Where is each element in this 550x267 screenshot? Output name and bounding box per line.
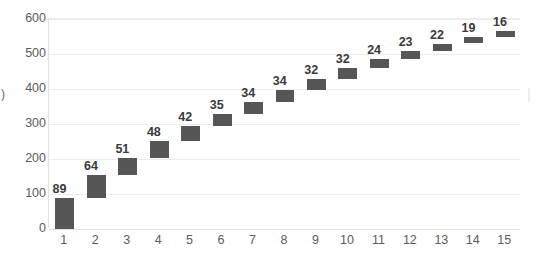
bar-value-label-8: 34 — [273, 74, 287, 88]
bar-value-label-13: 22 — [430, 28, 444, 42]
x-axis-tick-label-13: 13 — [434, 233, 448, 247]
bar-12[interactable] — [401, 51, 420, 59]
bar-value-label-15: 16 — [493, 15, 507, 29]
bar-value-label-9: 32 — [304, 63, 318, 77]
x-axis-tick-label-14: 14 — [466, 233, 480, 247]
bar-8[interactable] — [276, 90, 295, 102]
bar-value-label-5: 42 — [178, 110, 192, 124]
bar-4[interactable] — [150, 141, 169, 158]
right-edge-clipped-artifact — [528, 88, 530, 102]
y-axis-tick-label: 400 — [2, 81, 46, 95]
bar-5[interactable] — [181, 126, 200, 141]
bar-value-label-3: 51 — [115, 142, 129, 156]
gridline-300 — [49, 124, 520, 125]
bar-value-label-4: 48 — [147, 125, 161, 139]
gridline-500 — [49, 54, 520, 55]
bar-value-label-10: 32 — [336, 52, 350, 66]
x-axis: 123456789101112131415 — [48, 231, 520, 255]
bar-11[interactable] — [370, 59, 389, 67]
bar-value-label-6: 35 — [210, 98, 224, 112]
x-axis-tick-label-7: 7 — [249, 233, 256, 247]
bar-value-label-11: 24 — [367, 43, 381, 57]
bar-13[interactable] — [433, 44, 452, 52]
bar-value-label-1: 89 — [52, 182, 66, 196]
y-axis-tick-label: 500 — [2, 46, 46, 60]
gridline-0 — [49, 229, 520, 230]
x-axis-tick-label-6: 6 — [218, 233, 225, 247]
x-axis-tick-label-15: 15 — [497, 233, 511, 247]
x-axis-tick-label-5: 5 — [186, 233, 193, 247]
x-axis-tick-label-4: 4 — [155, 233, 162, 247]
bar-7[interactable] — [244, 102, 263, 114]
bar-15[interactable] — [496, 31, 515, 37]
bar-6[interactable] — [213, 114, 232, 126]
bar-1[interactable] — [55, 198, 74, 229]
y-axis-title-clipped: ) — [1, 88, 5, 100]
plot-area: 896451484235343432322423221916 — [48, 18, 520, 228]
bar-2[interactable] — [87, 175, 106, 197]
x-axis-tick-label-12: 12 — [403, 233, 417, 247]
y-axis-tick-label: 300 — [2, 116, 46, 130]
x-axis-tick-label-3: 3 — [123, 233, 130, 247]
bar-3[interactable] — [118, 158, 137, 176]
y-axis-tick-label: 200 — [2, 151, 46, 165]
y-axis: 0100200300400500600 — [0, 18, 46, 228]
x-axis-tick-label-8: 8 — [281, 233, 288, 247]
x-axis-tick-label-9: 9 — [312, 233, 319, 247]
bar-value-label-12: 23 — [399, 35, 413, 49]
x-axis-tick-label-2: 2 — [92, 233, 99, 247]
bar-value-label-7: 34 — [241, 86, 255, 100]
x-axis-tick-label-11: 11 — [372, 233, 385, 247]
x-axis-tick-label-10: 10 — [340, 233, 354, 247]
gridline-600 — [49, 19, 520, 20]
gridline-100 — [49, 194, 520, 195]
bar-14[interactable] — [464, 37, 483, 44]
bar-10[interactable] — [338, 68, 357, 79]
bar-9[interactable] — [307, 79, 326, 90]
y-axis-tick-label: 0 — [2, 221, 46, 235]
waterfall-chart: 0100200300400500600 ) 896451484235343432… — [0, 0, 550, 267]
y-axis-tick-label: 600 — [2, 11, 46, 25]
bar-value-label-14: 19 — [462, 21, 476, 35]
bar-value-label-2: 64 — [84, 159, 98, 173]
y-axis-tick-label: 100 — [2, 186, 46, 200]
x-axis-tick-label-1: 1 — [60, 233, 67, 247]
